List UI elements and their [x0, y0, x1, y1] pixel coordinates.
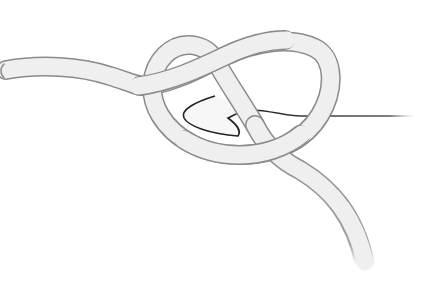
slip-knot-on-hook-image: [0, 0, 423, 282]
yarn-strand: [1, 40, 365, 265]
knot-illustration: [0, 0, 423, 282]
